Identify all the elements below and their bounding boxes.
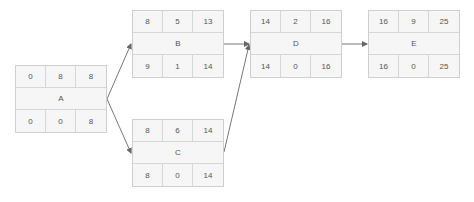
node-e-late-finish: 25 xyxy=(429,55,459,77)
node-b-duration: 5 xyxy=(163,11,193,32)
edge-a-to-b xyxy=(107,44,131,99)
node-a-name: A xyxy=(16,88,106,109)
node-b-bottom-row: 9 1 14 xyxy=(133,55,223,77)
node-d[interactable]: 14 2 16 D 14 0 16 xyxy=(250,10,342,78)
node-e-early-finish: 25 xyxy=(429,11,459,32)
node-a-name-row: A xyxy=(16,88,106,110)
node-e-name-row: E xyxy=(369,33,459,55)
node-c[interactable]: 8 6 14 C 8 0 14 xyxy=(132,119,224,187)
node-a[interactable]: 0 8 8 A 0 0 8 xyxy=(15,65,107,133)
node-b-early-start: 8 xyxy=(133,11,163,32)
node-e-duration: 9 xyxy=(399,11,429,32)
node-d-name: D xyxy=(251,33,341,54)
node-a-bottom-row: 0 0 8 xyxy=(16,110,106,132)
node-c-slack: 0 xyxy=(163,164,193,186)
node-e[interactable]: 16 9 25 E 16 0 25 xyxy=(368,10,460,78)
node-b-late-finish: 14 xyxy=(193,55,223,77)
node-d-early-start: 14 xyxy=(251,11,281,32)
node-d-slack: 0 xyxy=(281,55,311,77)
node-b-name-row: B xyxy=(133,33,223,55)
node-a-late-finish: 8 xyxy=(76,110,106,132)
node-a-late-start: 0 xyxy=(16,110,46,132)
node-a-early-finish: 8 xyxy=(76,66,106,87)
node-e-late-start: 16 xyxy=(369,55,399,77)
node-c-top-row: 8 6 14 xyxy=(133,120,223,142)
edge-a-to-c xyxy=(107,99,131,153)
node-c-early-start: 8 xyxy=(133,120,163,141)
node-c-bottom-row: 8 0 14 xyxy=(133,164,223,186)
node-a-slack: 0 xyxy=(46,110,76,132)
edge-c-to-d xyxy=(224,45,249,152)
node-d-late-finish: 16 xyxy=(311,55,341,77)
node-e-name: E xyxy=(369,33,459,54)
node-b[interactable]: 8 5 13 B 9 1 14 xyxy=(132,10,224,78)
node-d-bottom-row: 14 0 16 xyxy=(251,55,341,77)
node-e-early-start: 16 xyxy=(369,11,399,32)
node-b-late-start: 9 xyxy=(133,55,163,77)
node-c-duration: 6 xyxy=(163,120,193,141)
node-b-top-row: 8 5 13 xyxy=(133,11,223,33)
node-d-top-row: 14 2 16 xyxy=(251,11,341,33)
node-b-early-finish: 13 xyxy=(193,11,223,32)
node-d-early-finish: 16 xyxy=(311,11,341,32)
node-b-name: B xyxy=(133,33,223,54)
node-c-early-finish: 14 xyxy=(193,120,223,141)
node-e-top-row: 16 9 25 xyxy=(369,11,459,33)
node-a-top-row: 0 8 8 xyxy=(16,66,106,88)
node-a-duration: 8 xyxy=(46,66,76,87)
node-d-name-row: D xyxy=(251,33,341,55)
node-b-slack: 1 xyxy=(163,55,193,77)
node-e-slack: 0 xyxy=(399,55,429,77)
node-d-late-start: 14 xyxy=(251,55,281,77)
node-c-name: C xyxy=(133,142,223,163)
node-c-late-finish: 14 xyxy=(193,164,223,186)
node-c-name-row: C xyxy=(133,142,223,164)
node-c-late-start: 8 xyxy=(133,164,163,186)
node-e-bottom-row: 16 0 25 xyxy=(369,55,459,77)
node-a-early-start: 0 xyxy=(16,66,46,87)
node-d-duration: 2 xyxy=(281,11,311,32)
